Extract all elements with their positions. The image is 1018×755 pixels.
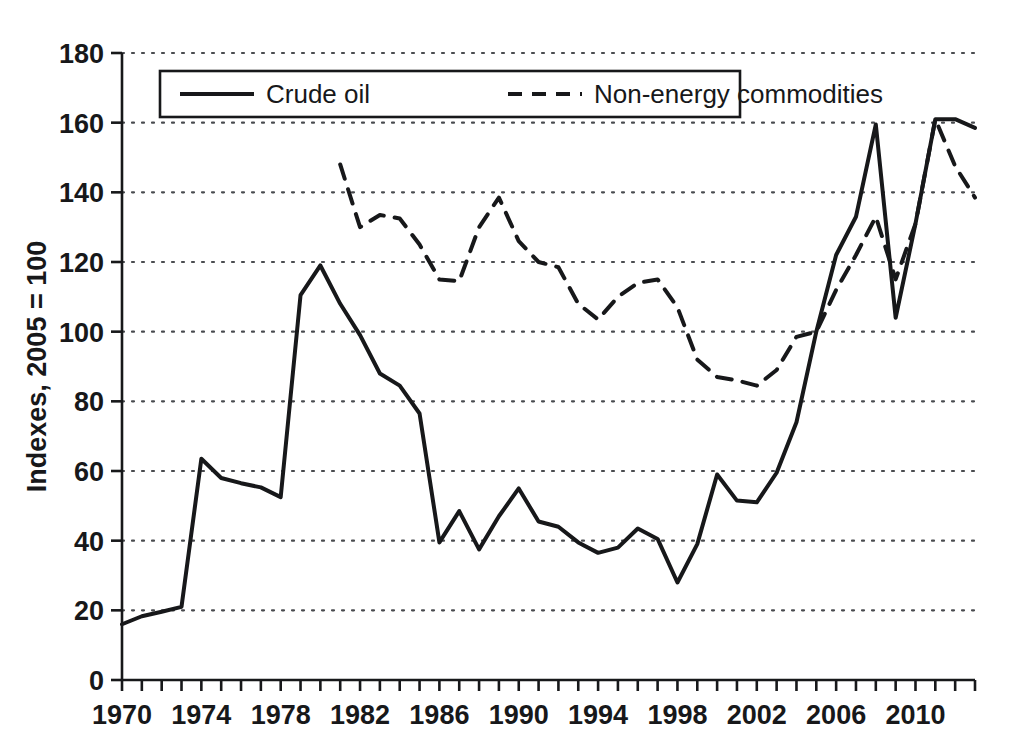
x-tick-label: 1978 <box>251 700 311 730</box>
y-tick-label: 40 <box>74 527 104 557</box>
x-tick-label: 2010 <box>885 700 945 730</box>
chart-container: 020406080100120140160180 197019741978198… <box>0 0 1018 755</box>
y-axis-tick-labels: 020406080100120140160180 <box>59 39 104 696</box>
x-tick-label: 2002 <box>727 700 787 730</box>
y-axis-title: Indexes, 2005 = 100 <box>22 241 52 492</box>
series-line-crude-oil <box>122 119 975 624</box>
y-tick-label: 20 <box>74 596 104 626</box>
data-series <box>122 119 975 624</box>
x-tick-label: 2006 <box>806 700 866 730</box>
x-tick-label: 1998 <box>647 700 707 730</box>
y-tick-label: 120 <box>59 248 104 278</box>
gridlines <box>122 53 975 610</box>
legend-box: Crude oilNon-energy commodities <box>160 71 883 117</box>
y-tick-label: 60 <box>74 457 104 487</box>
y-tick-label: 160 <box>59 109 104 139</box>
x-tick-label: 1986 <box>409 700 469 730</box>
y-tick-label: 0 <box>89 666 104 696</box>
legend-label: Non-energy commodities <box>594 79 883 109</box>
y-tick-label: 180 <box>59 39 104 69</box>
x-tick-label: 1970 <box>92 700 152 730</box>
x-tick-label: 1974 <box>171 700 231 730</box>
legend-label: Crude oil <box>266 79 370 109</box>
x-axis-ticks <box>122 680 975 691</box>
y-axis-title-text: Indexes, 2005 = 100 <box>22 241 52 492</box>
y-tick-label: 80 <box>74 387 104 417</box>
x-tick-label: 1982 <box>330 700 390 730</box>
x-tick-label: 1990 <box>489 700 549 730</box>
y-axis-ticks <box>111 53 122 680</box>
commodity-price-index-chart: 020406080100120140160180 197019741978198… <box>0 0 1018 755</box>
y-tick-label: 140 <box>59 178 104 208</box>
y-tick-label: 100 <box>59 318 104 348</box>
x-axis-tick-labels: 1970197419781982198619901994199820022006… <box>92 700 946 730</box>
x-tick-label: 1994 <box>568 700 628 730</box>
